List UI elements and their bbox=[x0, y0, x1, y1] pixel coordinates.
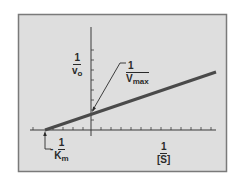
x-axis-label: 1 [S] bbox=[157, 137, 170, 165]
vmax-label: 1 Vmax bbox=[126, 56, 149, 84]
y-axis-label: 1 vo bbox=[72, 48, 82, 76]
km-label: - 1 Km bbox=[50, 138, 69, 161]
lineweaver-burk-figure: 1 vo 1 Vmax - 1 Km 1 [S] bbox=[0, 0, 240, 182]
plot-svg bbox=[0, 0, 240, 182]
